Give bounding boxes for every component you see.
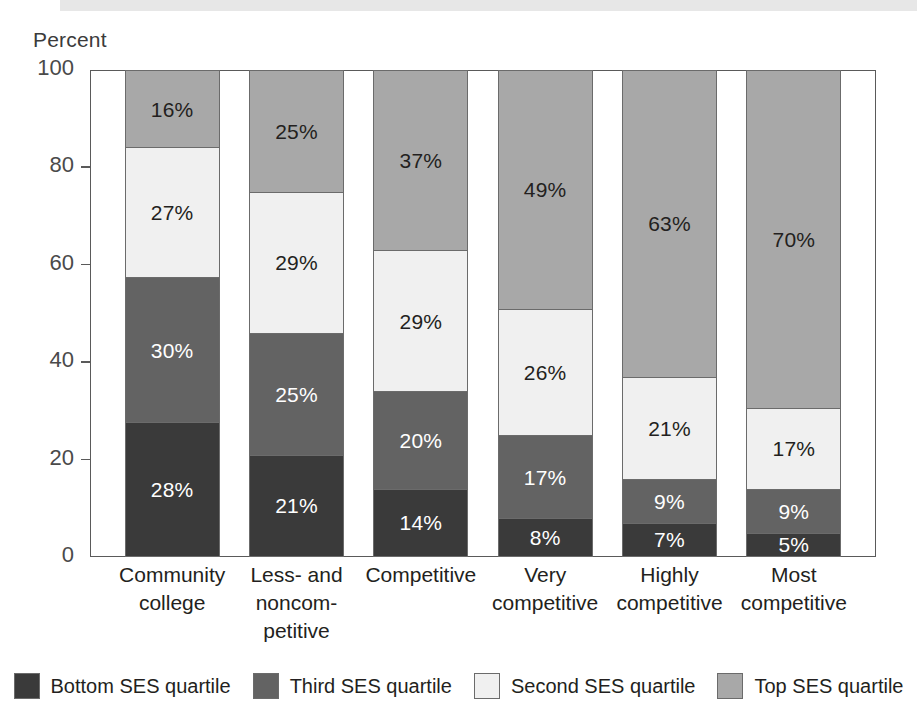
x-axis-category-label-line: competitive bbox=[724, 589, 863, 617]
bar-group[interactable]: 14%20%29%37% bbox=[373, 70, 468, 557]
bar-segment-value-label: 26% bbox=[524, 362, 567, 383]
x-axis-category-label-line: Less- and bbox=[227, 561, 366, 589]
x-axis-category-label-line: Community bbox=[103, 561, 242, 589]
bar-segment[interactable]: 25% bbox=[249, 70, 344, 192]
bar-segment-value-label: 29% bbox=[275, 252, 318, 273]
bar-segment[interactable]: 8% bbox=[498, 518, 593, 557]
x-axis-category-label-line: petitive bbox=[227, 617, 366, 645]
bar-segment-value-label: 28% bbox=[151, 479, 194, 500]
legend-item[interactable]: Third SES quartile bbox=[253, 673, 452, 699]
bar-segment[interactable]: 9% bbox=[622, 479, 717, 523]
bar-segment[interactable]: 5% bbox=[746, 533, 841, 557]
x-axis-category-label: Verycompetitive bbox=[476, 561, 615, 617]
y-axis-tick-label: 100 bbox=[37, 55, 74, 81]
legend-item[interactable]: Second SES quartile bbox=[474, 673, 696, 699]
chart-legend: Bottom SES quartileThird SES quartileSec… bbox=[0, 666, 917, 706]
bar-segment-value-label: 29% bbox=[400, 311, 443, 332]
x-axis-category-label: Mostcompetitive bbox=[724, 561, 863, 617]
bar-segment[interactable]: 63% bbox=[622, 70, 717, 377]
bar-segment[interactable]: 14% bbox=[373, 489, 468, 557]
legend-swatch bbox=[253, 673, 279, 699]
bar-segment[interactable]: 29% bbox=[249, 192, 344, 333]
y-axis-title: Percent bbox=[33, 28, 107, 52]
bar-segment[interactable]: 27% bbox=[125, 147, 220, 277]
y-axis-tick-label: 60 bbox=[50, 250, 74, 276]
bar-segment-value-label: 5% bbox=[778, 534, 809, 555]
bar-segment-value-label: 9% bbox=[654, 491, 685, 512]
y-axis-tick-label: 80 bbox=[50, 152, 74, 178]
bar-group[interactable]: 5%9%17%70% bbox=[746, 70, 841, 557]
x-axis-category-label-line: Most bbox=[724, 561, 863, 589]
bar-segment[interactable]: 29% bbox=[373, 250, 468, 391]
x-axis-category-label-line: competitive bbox=[476, 589, 615, 617]
legend-item[interactable]: Top SES quartile bbox=[717, 673, 903, 699]
bar-segment[interactable]: 20% bbox=[373, 391, 468, 488]
y-axis: 020406080100 bbox=[0, 70, 92, 557]
x-axis-category-label-line: noncom- bbox=[227, 589, 366, 617]
legend-label: Bottom SES quartile bbox=[51, 675, 231, 698]
bar-segment[interactable]: 37% bbox=[373, 70, 468, 250]
bar-segment[interactable]: 17% bbox=[746, 408, 841, 490]
bar-group[interactable]: 8%17%26%49% bbox=[498, 70, 593, 557]
legend-swatch bbox=[474, 673, 500, 699]
bar-segment-value-label: 14% bbox=[400, 512, 443, 533]
bar-segment-value-label: 25% bbox=[275, 121, 318, 142]
bar-segment-value-label: 27% bbox=[151, 202, 194, 223]
y-axis-tick-label: 40 bbox=[50, 347, 74, 373]
x-axis-category-label: Communitycollege bbox=[103, 561, 242, 617]
legend-label: Third SES quartile bbox=[290, 675, 452, 698]
bar-segment-value-label: 49% bbox=[524, 179, 567, 200]
bar-group[interactable]: 28%30%27%16% bbox=[125, 70, 220, 557]
bar-segment-value-label: 20% bbox=[400, 430, 443, 451]
bar-segment[interactable]: 30% bbox=[125, 277, 220, 422]
bar-segment-value-label: 21% bbox=[648, 418, 691, 439]
bar-segment[interactable]: 17% bbox=[498, 435, 593, 518]
bar-segment-value-label: 7% bbox=[654, 529, 685, 550]
bar-segment[interactable]: 25% bbox=[249, 333, 344, 455]
bar-segment-value-label: 70% bbox=[773, 229, 816, 250]
legend-label: Second SES quartile bbox=[511, 675, 696, 698]
bar-segment-value-label: 37% bbox=[400, 150, 443, 171]
x-axis-category-label: Competitive bbox=[351, 561, 490, 589]
bar-segment-value-label: 17% bbox=[524, 467, 567, 488]
bar-segment-value-label: 16% bbox=[151, 99, 194, 120]
x-axis-category-label-line: Very bbox=[476, 561, 615, 589]
bar-segment-value-label: 9% bbox=[778, 501, 809, 522]
bar-segment[interactable]: 21% bbox=[249, 455, 344, 557]
bar-group[interactable]: 21%25%29%25% bbox=[249, 70, 344, 557]
bar-segment[interactable]: 7% bbox=[622, 523, 717, 557]
bar-segment-value-label: 8% bbox=[530, 527, 561, 548]
bar-segment[interactable]: 21% bbox=[622, 377, 717, 479]
y-axis-tick-label: 0 bbox=[62, 542, 74, 568]
bar-segment-value-label: 25% bbox=[275, 384, 318, 405]
x-axis-category-label-line: Competitive bbox=[351, 561, 490, 589]
bar-segment[interactable]: 49% bbox=[498, 70, 593, 309]
y-axis-tick-label: 20 bbox=[50, 445, 74, 471]
x-axis-category-label-line: Highly bbox=[600, 561, 739, 589]
legend-swatch bbox=[717, 673, 743, 699]
bar-segment-value-label: 21% bbox=[275, 495, 318, 516]
bar-segment-value-label: 63% bbox=[648, 213, 691, 234]
bar-segment-value-label: 30% bbox=[151, 340, 194, 361]
bar-group[interactable]: 7%9%21%63% bbox=[622, 70, 717, 557]
bar-segment[interactable]: 26% bbox=[498, 309, 593, 436]
bar-segment[interactable]: 28% bbox=[125, 422, 220, 557]
x-axis-category-label-line: competitive bbox=[600, 589, 739, 617]
stacked-bar-chart-figure: Percent 020406080100 28%30%27%16%21%25%2… bbox=[0, 0, 917, 719]
legend-label: Top SES quartile bbox=[754, 675, 903, 698]
x-axis-category-label: Highlycompetitive bbox=[600, 561, 739, 617]
x-axis-category-label-line: college bbox=[103, 589, 242, 617]
x-axis-category-label: Less- andnoncom-petitive bbox=[227, 561, 366, 645]
bars-layer: 28%30%27%16%21%25%29%25%14%20%29%37%8%17… bbox=[90, 70, 876, 557]
legend-swatch bbox=[14, 673, 40, 699]
bar-segment[interactable]: 9% bbox=[746, 489, 841, 532]
x-axis-labels: CommunitycollegeLess- andnoncom-petitive… bbox=[90, 561, 876, 661]
bar-segment-value-label: 17% bbox=[773, 438, 816, 459]
bar-segment[interactable]: 70% bbox=[746, 70, 841, 408]
bar-segment[interactable]: 16% bbox=[125, 70, 220, 147]
legend-item[interactable]: Bottom SES quartile bbox=[14, 673, 231, 699]
